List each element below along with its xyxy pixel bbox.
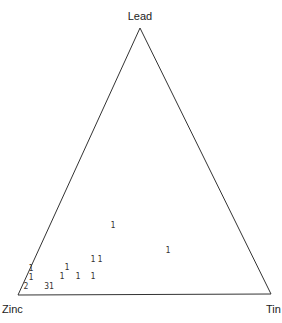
data-point-label: 1	[60, 272, 65, 281]
data-point-label: 1	[98, 255, 103, 264]
vertex-label-tin: Tin	[266, 303, 281, 315]
vertex-labels: LeadZincTin	[2, 10, 281, 315]
data-point-label: 1	[111, 221, 116, 230]
data-point-label: 1	[65, 263, 70, 272]
data-point-label: 1	[91, 272, 96, 281]
vertex-label-lead: Lead	[128, 10, 152, 22]
data-point-label: 1	[29, 264, 34, 273]
ternary-plot: LeadZincTin 1111111111231	[0, 0, 282, 323]
ternary-triangle	[18, 28, 271, 295]
data-points: 1111111111231	[24, 221, 171, 291]
data-point-label: 2	[24, 282, 29, 291]
data-point-label: 1	[29, 273, 34, 282]
data-point-label: 1	[76, 272, 81, 281]
data-point-label: 1	[91, 255, 96, 264]
data-point-label: 1	[166, 246, 171, 255]
vertex-label-zinc: Zinc	[2, 303, 23, 315]
data-point-label: 31	[44, 282, 54, 291]
